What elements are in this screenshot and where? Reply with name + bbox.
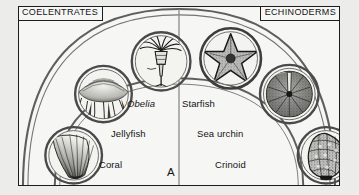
label-coral: Coral	[99, 160, 122, 170]
label-crinoid: Crinoid	[215, 160, 246, 170]
label-obelia: Obelia	[127, 99, 155, 109]
label-sea-urchin: Sea urchin	[197, 129, 243, 139]
header-label-coelenterates: COELENTRATES	[18, 6, 103, 21]
figure-page: COELENTRATES ECHINODERMS Obelia Starfish…	[0, 0, 359, 195]
starfish-icon	[200, 28, 261, 88]
label-starfish: Starfish	[182, 99, 215, 109]
crinoid-icon	[298, 127, 339, 185]
coral-icon	[45, 127, 102, 183]
urchin-icon	[260, 65, 319, 123]
panel-letter: A	[167, 167, 175, 179]
label-jellyfish: Jellyfish	[111, 129, 146, 139]
hydroid-icon	[132, 31, 191, 91]
figure-plate: COELENTRATES ECHINODERMS Obelia Starfish…	[18, 6, 340, 186]
diagram-artwork	[19, 7, 339, 185]
header-label-echinoderms: ECHINODERMS	[260, 6, 340, 21]
